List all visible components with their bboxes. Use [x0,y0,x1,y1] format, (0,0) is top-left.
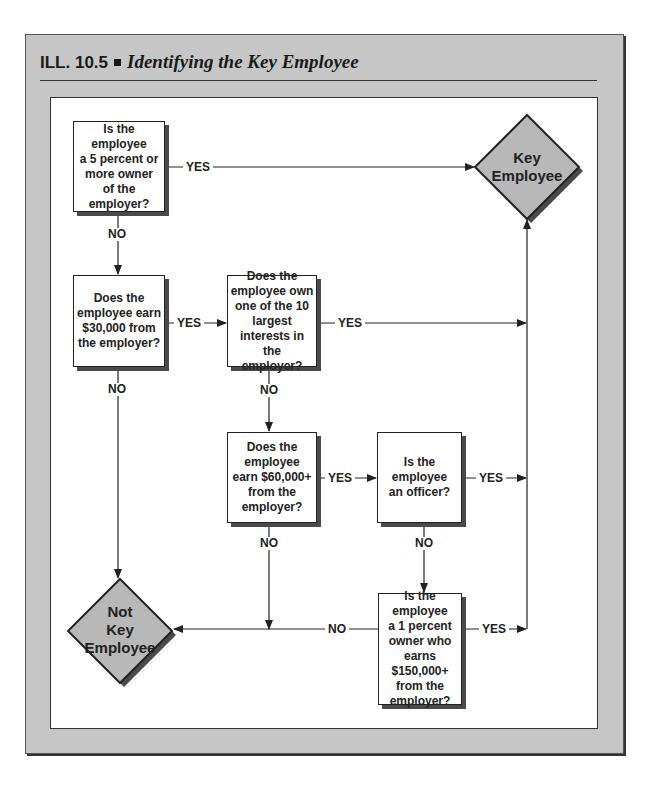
q3-no-label: NO [257,384,281,397]
q4-line: employer? [232,500,311,515]
q1-no-label: NO [105,228,129,241]
not-key-employee-label: Not Key Employee [70,603,170,657]
q3-line: employee own [230,284,314,299]
q2-line: $30,000 from [77,321,161,336]
q3-line: interests in the [230,329,314,359]
q6-line: employee [388,604,451,619]
q2-yes-label: YES [174,317,204,330]
q3-line: employer? [230,359,314,374]
not-key-line: Not [70,603,170,621]
q3-line: one of the 10 [230,299,314,314]
q3-line: largest [230,314,314,329]
figure-title-text: Identifying the Key Employee [127,51,359,72]
q5-line: an officer? [389,485,450,500]
q4-line: earn $60,000+ [232,470,311,485]
q2-earn-30000-box: Does the employee earn $30,000 from the … [73,275,165,367]
not-key-line: Employee [70,639,170,657]
q5-yes-label: YES [476,472,506,485]
q3-ten-largest-interests-box: Does the employee own one of the 10 larg… [227,275,317,367]
q2-line: the employer? [77,336,161,351]
q6-one-percent-owner-box: Is the employee a 1 percent owner who ea… [378,593,462,705]
q4-line: employee [232,455,311,470]
q4-line: Does the [232,440,311,455]
key-employee-label: Key Employee [477,149,577,185]
q1-line: a 5 percent or [80,152,159,167]
q6-line: owner who [388,634,451,649]
q1-line: of the [80,182,159,197]
figure-title: ILL. 10.5Identifying the Key Employee [40,51,359,73]
q6-line: earns [388,649,451,664]
q4-yes-label: YES [325,472,355,485]
bullet-icon [114,59,121,66]
q2-no-label: NO [105,383,129,396]
q6-no-label: NO [325,623,349,636]
q1-line: employer? [80,197,159,212]
q6-line: $150,000+ [388,664,451,679]
q6-line: employer? [388,694,451,709]
key-line: Employee [477,167,577,185]
q6-line: Is the [388,589,451,604]
q1-line: Is the [80,122,159,137]
q1-five-percent-owner-box: Is the employee a 5 percent or more owne… [73,121,165,212]
title-rule [40,80,597,81]
q1-line: more owner [80,167,159,182]
q6-line: from the [388,679,451,694]
figure-label: ILL. 10.5 [40,53,108,72]
q3-line: Does the [230,269,314,284]
q4-earn-60000-box: Does the employee earn $60,000+ from the… [227,432,317,523]
q1-line: employee [80,137,159,152]
q6-line: a 1 percent [388,619,451,634]
q2-line: Does the [77,291,161,306]
q1-yes-label: YES [183,161,213,174]
q5-officer-box: Is the employee an officer? [377,432,462,523]
key-line: Key [477,149,577,167]
q6-yes-label: YES [479,623,509,636]
q5-no-label: NO [412,537,436,550]
q2-line: employee earn [77,306,161,321]
q5-line: Is the [389,455,450,470]
q5-line: employee [389,470,450,485]
q3-yes-label: YES [335,317,365,330]
q4-line: from the [232,485,311,500]
q4-no-label: NO [257,537,281,550]
not-key-line: Key [70,621,170,639]
